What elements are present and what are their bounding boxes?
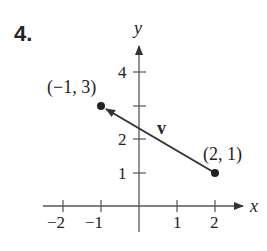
x-tick-label: 1: [173, 213, 182, 232]
y-tick-label: 4: [118, 63, 127, 82]
vector-label: v: [157, 118, 166, 138]
y-tick-label: 1: [118, 164, 127, 183]
y-axis-label: y: [132, 18, 142, 38]
point-label: (−1, 3): [47, 77, 96, 98]
x-tick-label: −1: [85, 213, 103, 232]
x-tick-label: −2: [47, 213, 65, 232]
point-end: [211, 169, 219, 177]
problem-number: 4.: [14, 21, 32, 46]
point-start: [97, 102, 105, 110]
y-tick-label: 2: [118, 130, 127, 149]
x-tick-label: 2: [210, 213, 219, 232]
vector-plot: 4. x y −2 −1 1 2 1 2 4 v (−1, 3) (2, 1): [0, 0, 267, 251]
x-axis-label: x: [249, 196, 258, 216]
point-label: (2, 1): [203, 144, 242, 165]
